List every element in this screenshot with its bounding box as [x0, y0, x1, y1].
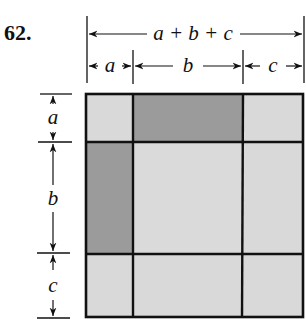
problem-number: 62.	[4, 20, 32, 45]
top-segment-c-label: c	[268, 53, 278, 77]
cell-a-b	[133, 94, 243, 142]
cell-b-b	[133, 142, 243, 254]
cell-a-c	[243, 94, 303, 142]
top-segment-a-label: a	[105, 53, 116, 77]
left-segment-b-label: b	[48, 186, 59, 210]
cell-c-c	[243, 254, 303, 317]
square-decomposition-diagram: 62. a + b + c a b c a b	[0, 0, 306, 319]
cell-a-a	[86, 94, 133, 142]
top-segment-b-label: b	[183, 53, 194, 77]
cell-c-b	[133, 254, 243, 317]
square-grid	[86, 94, 303, 317]
total-length-label: a + b + c	[153, 21, 233, 45]
cell-b-c	[243, 142, 303, 254]
left-segment-a-label: a	[48, 105, 59, 129]
left-segment-c-label: c	[48, 273, 58, 297]
cell-b-a	[86, 142, 133, 254]
cell-c-a	[86, 254, 133, 317]
